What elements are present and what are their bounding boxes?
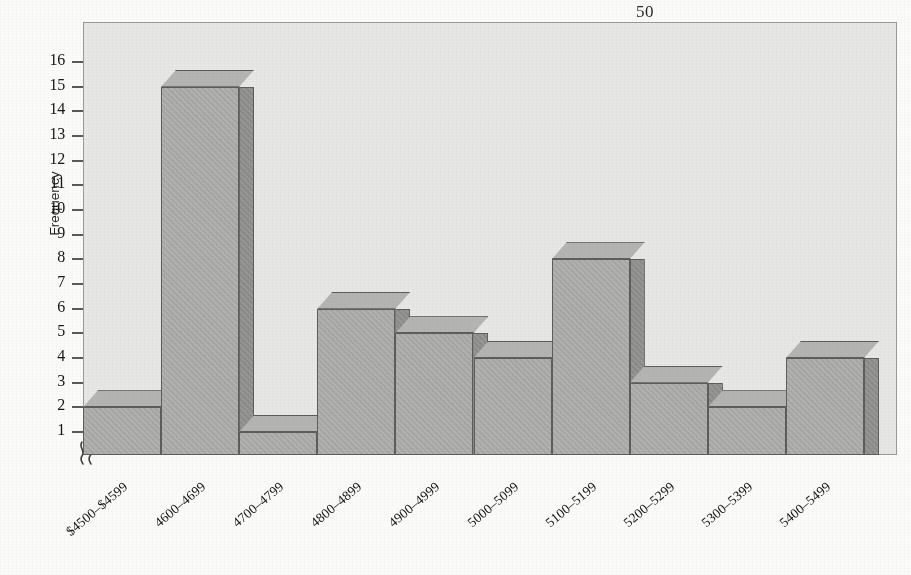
- x-tick-label: $4500–$4599: [41, 479, 131, 558]
- x-tick-label: 4600–4699: [119, 479, 209, 558]
- x-tick-label: 5100–5199: [510, 479, 600, 558]
- x-tick-label: 4900–4999: [354, 479, 444, 558]
- x-tick-label: 5300–5399: [666, 479, 756, 558]
- x-tick-label: 4700–4799: [197, 479, 287, 558]
- x-tick-label: 4800–4899: [276, 479, 366, 558]
- x-tick-label: 5000–5099: [432, 479, 522, 558]
- x-tick-label: 5200–5299: [588, 479, 678, 558]
- x-axis-labels: $4500–$45994600–46994700–47994800–489949…: [0, 0, 911, 575]
- histogram-figure: Frequency 16151413121110987654321 $4500–…: [0, 0, 911, 575]
- x-tick-label: 5400–5499: [744, 479, 834, 558]
